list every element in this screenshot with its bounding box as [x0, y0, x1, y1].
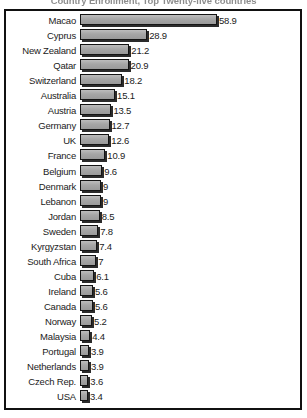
- category-label: Portugal: [6, 344, 76, 359]
- bar-row: South Africa7: [6, 254, 300, 269]
- bar-fill: [81, 226, 97, 235]
- bar-fill: [81, 316, 91, 325]
- value-label: 13.5: [113, 103, 131, 118]
- bar-container: [80, 375, 88, 388]
- bar-container: [80, 285, 93, 298]
- bar: [80, 375, 88, 386]
- category-label: UK: [6, 133, 76, 148]
- bar-row: Denmark9: [6, 179, 300, 194]
- bar-container: [80, 360, 89, 373]
- bar-container: [80, 180, 101, 193]
- bar-fill: [81, 346, 88, 355]
- bar-rows: Macao58.9Cyprus28.9New Zealand21.2Qatar2…: [6, 11, 300, 408]
- bar-row: Jordan8.5: [6, 209, 300, 224]
- category-label: Denmark: [6, 179, 76, 194]
- bar-fill: [81, 45, 128, 54]
- bar: [80, 210, 100, 221]
- bar-row: Kyrgyzstan7.4: [6, 239, 300, 254]
- bar-row: Malaysia4.4: [6, 329, 300, 344]
- bar-row: Canada5.6: [6, 299, 300, 314]
- bar-container: [80, 390, 88, 403]
- value-label: 8.5: [102, 209, 115, 224]
- value-label: 5.2: [94, 314, 107, 329]
- bar-row: USA3.4: [6, 389, 300, 404]
- bar-fill: [81, 150, 104, 159]
- bar-fill: [81, 241, 96, 250]
- bar-container: [80, 330, 90, 343]
- chart-title: Country Enrollment, Top Twenty-five coun…: [0, 0, 307, 6]
- bar: [80, 149, 105, 160]
- category-label: Switzerland: [6, 73, 76, 88]
- category-label: Jordan: [6, 209, 76, 224]
- bar: [80, 59, 129, 70]
- bar-container: [80, 255, 96, 268]
- bar: [80, 240, 97, 251]
- category-label: Qatar: [6, 58, 76, 73]
- value-label: 9: [103, 194, 108, 209]
- category-label: Germany: [6, 118, 76, 133]
- category-label: Norway: [6, 314, 76, 329]
- value-label: 3.4: [90, 389, 103, 404]
- value-label: 12.7: [112, 118, 130, 133]
- value-label: 28.9: [149, 28, 167, 43]
- bar-fill: [81, 391, 87, 400]
- category-label: South Africa: [6, 254, 76, 269]
- bar: [80, 225, 98, 236]
- bar-container: [80, 195, 101, 208]
- bar-container: [80, 240, 97, 253]
- bar-fill: [81, 196, 100, 205]
- value-label: 5.6: [95, 284, 108, 299]
- bar: [80, 134, 109, 145]
- value-label: 9.6: [104, 164, 117, 179]
- bar-fill: [81, 301, 92, 310]
- bar-container: [80, 89, 115, 102]
- bar-row: Austria13.5: [6, 103, 300, 118]
- category-label: Lebanon: [6, 194, 76, 209]
- category-label: Cuba: [6, 269, 76, 284]
- bar-fill: [81, 256, 95, 265]
- bar: [80, 74, 122, 85]
- bar: [80, 180, 101, 191]
- bar-row: Germany12.7: [6, 118, 300, 133]
- category-label: Malaysia: [6, 329, 76, 344]
- category-label: Ireland: [6, 284, 76, 299]
- bar-container: [80, 44, 129, 57]
- bar-row: Cyprus28.9: [6, 28, 300, 43]
- bar: [80, 390, 88, 401]
- category-label: Austria: [6, 103, 76, 118]
- category-label: Czech Rep.: [6, 374, 76, 389]
- value-label: 3.9: [91, 359, 104, 374]
- category-label: Belgium: [6, 164, 76, 179]
- bar-row: Ireland5.6: [6, 284, 300, 299]
- bar-row: Norway5.2: [6, 314, 300, 329]
- bar-fill: [81, 90, 114, 99]
- bar-row: Lebanon9: [6, 194, 300, 209]
- category-label: Netherlands: [6, 359, 76, 374]
- bar-fill: [81, 60, 128, 69]
- category-label: Australia: [6, 88, 76, 103]
- bar-fill: [81, 331, 89, 340]
- category-label: New Zealand: [6, 43, 76, 58]
- value-label: 20.9: [131, 58, 149, 73]
- category-label: USA: [6, 389, 76, 404]
- bar-fill: [81, 211, 99, 220]
- value-label: 9: [103, 179, 108, 194]
- bar-container: [80, 165, 102, 178]
- value-label: 7.4: [99, 239, 112, 254]
- bar-container: [80, 225, 98, 238]
- bar-row: Switzerland18.2: [6, 73, 300, 88]
- bar: [80, 255, 96, 266]
- bar-container: [80, 134, 109, 147]
- bar: [80, 29, 147, 40]
- bar: [80, 44, 129, 55]
- bar: [80, 104, 111, 115]
- bar-fill: [81, 15, 216, 24]
- bar-container: [80, 74, 122, 87]
- bar: [80, 14, 217, 25]
- bar: [80, 300, 93, 311]
- bar-container: [80, 270, 94, 283]
- bar: [80, 285, 93, 296]
- value-label: 15.1: [117, 88, 135, 103]
- category-label: Kyrgyzstan: [6, 239, 76, 254]
- bar-row: Qatar20.9: [6, 58, 300, 73]
